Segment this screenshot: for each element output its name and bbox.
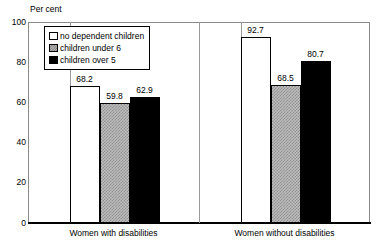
y-axis-tick: 80	[0, 58, 26, 67]
bar	[130, 97, 160, 223]
legend-item-label: children under 6	[60, 44, 121, 53]
y-axis-tick-label: 80	[2, 58, 26, 67]
y-axis-tick: 0	[0, 219, 26, 228]
x-axis-category-label: Women with disabilities	[28, 228, 199, 238]
y-axis-tick-label: 0	[2, 219, 26, 228]
category-separator	[199, 22, 200, 223]
legend-item: children over 5	[49, 54, 144, 66]
legend-item-label: no dependent children	[60, 32, 144, 41]
legend-swatch-black-icon	[49, 56, 58, 64]
bar	[271, 85, 301, 223]
bar-value-label: 80.7	[297, 50, 335, 59]
y-axis-tick: 100	[0, 18, 26, 27]
bar-value-label: 68.2	[66, 75, 104, 84]
y-axis-tick: 20	[0, 178, 26, 187]
legend-item: children under 6	[49, 42, 144, 54]
y-axis-tick-label: 60	[2, 98, 26, 107]
bar	[241, 37, 271, 223]
legend-swatch-white-icon	[49, 32, 58, 40]
bar-value-label: 62.9	[126, 86, 164, 95]
y-axis-title: Per cent	[30, 4, 62, 14]
legend: no dependent children children under 6 c…	[44, 26, 150, 70]
bar-value-label: 92.7	[237, 26, 275, 35]
bar	[301, 61, 331, 223]
y-axis-tick-label: 20	[2, 178, 26, 187]
legend-item-label: children over 5	[60, 56, 116, 65]
y-axis-tick-label: 100	[2, 18, 26, 27]
bar-value-label: 68.5	[267, 74, 305, 83]
x-axis-category-label: Women without disabilities	[199, 228, 370, 238]
legend-item: no dependent children	[49, 30, 144, 42]
bar	[100, 103, 130, 223]
bar-chart: Per cent 020406080100 68.259.862.992.768…	[0, 0, 386, 248]
legend-swatch-hatched-icon	[49, 44, 58, 52]
y-axis-tick-label: 40	[2, 138, 26, 147]
bar	[70, 86, 100, 223]
y-axis-tick: 40	[0, 138, 26, 147]
y-axis-tick: 60	[0, 98, 26, 107]
